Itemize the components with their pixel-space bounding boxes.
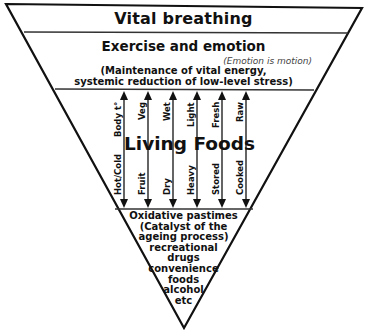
arrow-up-icon (242, 91, 250, 100)
oxidative-line: etc (0, 296, 367, 307)
oxidative-line: Oxidative pastimes (0, 211, 367, 222)
divider-top-tier (24, 32, 348, 33)
arrow-up-icon (144, 91, 152, 100)
spectrum-label-bottom: Hot/Cold (114, 153, 123, 196)
arrow-down-icon (193, 199, 201, 208)
spectrum-label-bottom: Cooked (236, 159, 245, 196)
spectrum-label-top: Fresh (212, 101, 221, 129)
spectrum-label-top: Wet (163, 101, 172, 122)
arrow-up-icon (193, 91, 201, 100)
arrow-down-icon (144, 199, 152, 208)
spectrum-label-bottom: Fruit (138, 172, 147, 196)
tier-living-foods: Living Foods (124, 133, 246, 154)
spectrum-label-top: Veg (138, 101, 147, 121)
spectrum-label-top: Raw (236, 101, 245, 123)
oxidative-line: convenience (0, 264, 367, 275)
spectrum-label-bottom: Stored (212, 162, 221, 196)
arrow-up-icon (120, 91, 128, 100)
spectrum-label-bottom: Dry (163, 177, 172, 196)
description-line: systemic reduction of low-level stress) (0, 76, 367, 87)
exercise-description: (Maintenance of vital energy, systemic r… (0, 65, 367, 87)
spectrum-label-top: Light (187, 101, 196, 128)
tier-vital-breathing: Vital breathing (0, 9, 367, 28)
tier-exercise-emotion: Exercise and emotion (0, 38, 367, 54)
divider-second-tier (55, 89, 314, 90)
arrow-up-icon (169, 91, 177, 100)
arrow-down-icon (242, 199, 250, 208)
arrow-down-icon (169, 199, 177, 208)
spectrum-label-bottom: Heavy (187, 164, 196, 196)
arrow-up-icon (218, 91, 226, 100)
tier-oxidative-pastimes: Oxidative pastimes (Catalyst of the agei… (0, 211, 367, 306)
arrow-down-icon (218, 199, 226, 208)
arrow-down-icon (120, 199, 128, 208)
spectrum-label-top: Body t° (114, 101, 123, 138)
description-line: (Maintenance of vital energy, (0, 65, 367, 76)
